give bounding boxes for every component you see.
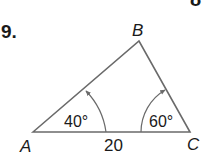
vertex-b-label: B [132, 21, 143, 40]
vertex-a-label: A [19, 137, 31, 156]
angle-c-label: 60° [149, 113, 173, 130]
triangle-diagram: 8 9. B A C 20 40° 60° [0, 0, 215, 164]
angle-a-label: 40° [64, 113, 88, 130]
angle-a-arc-icon [86, 91, 106, 132]
partial-glyph: 8 [190, 0, 201, 10]
problem-number: 9. [1, 21, 17, 42]
side-ac-length: 20 [104, 136, 123, 155]
vertex-c-label: C [187, 135, 200, 154]
